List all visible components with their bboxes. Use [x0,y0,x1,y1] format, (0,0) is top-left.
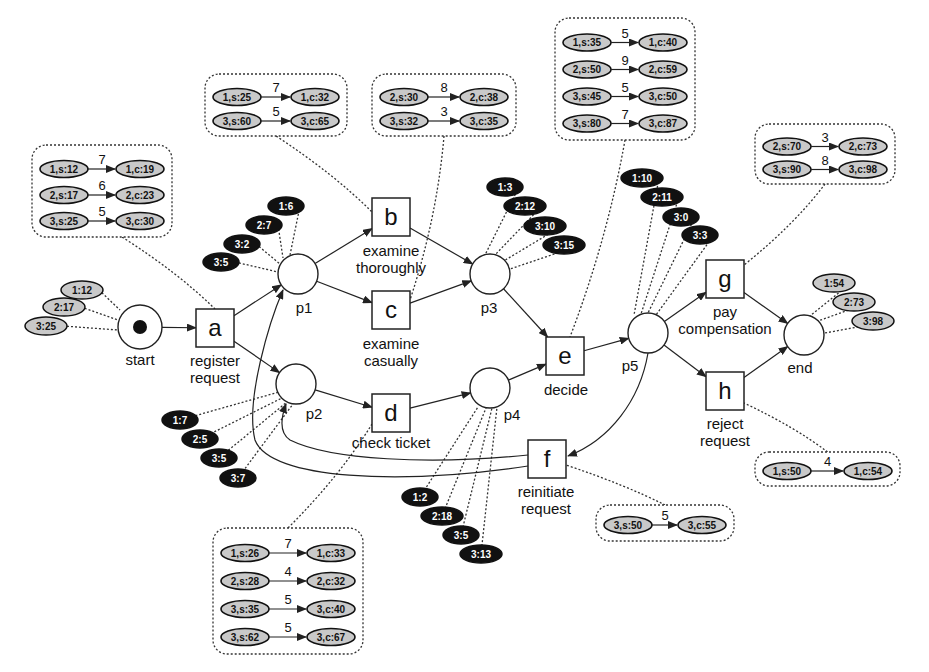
duration-label: 5 [621,26,628,41]
token-label: 2:11 [652,192,672,203]
annotation-links [63,136,890,554]
complete-event-label: 3,c:67 [317,632,346,643]
place-circle [470,368,510,408]
event-box-c: 2,s:302,c:3883,s:323,c:353 [372,74,516,136]
token-label: 3:25 [36,321,56,332]
transition-label: examine [363,242,420,259]
start-event-label: 3,s:45 [573,91,602,102]
arc-h-end [744,347,788,378]
transition-letter: b [384,203,397,230]
arc-p2-d [315,390,372,407]
place-circle [278,254,318,294]
duration-label: 5 [98,204,105,219]
arc-p3-e [503,289,547,337]
duration-label: 8 [440,80,447,95]
complete-event-label: 1,c:32 [301,92,330,103]
place-circle [784,315,824,355]
transition-label: thoroughly [356,259,427,276]
place-p5: p5 [622,313,668,374]
start-event-label: 1,s:25 [223,92,252,103]
token-link [63,326,118,330]
place-label: start [125,351,155,368]
event-box-d: 1,s:261,c:3372,s:282,c:3243,s:353,c:4053… [213,528,363,654]
duration-label: 7 [272,80,279,95]
transition-label: casually [364,352,419,369]
complete-event-label: 1,c:19 [126,164,155,175]
transition-letter: f [544,445,551,472]
duration-label: 5 [621,80,628,95]
token-dot-icon [133,320,147,334]
place-circle [276,364,316,404]
duration-label: 7 [284,536,291,551]
token-label: 2:17 [54,302,74,313]
petri-net-diagram: startp1p2p3p4p5endaregisterrequestbexami… [0,0,929,672]
transition-label: request [521,500,572,517]
duration-label: 5 [284,592,291,607]
complete-event-label: 3,c:50 [649,91,678,102]
event-box-h: 1,s:501,c:544 [755,452,900,486]
arc-p5-g [664,292,706,321]
event-box-f: 3,s:503,c:555 [596,505,734,541]
complete-event-label: 3,c:55 [688,520,717,531]
transition-letter: h [718,377,731,404]
start-event-label: 2,s:17 [50,190,79,201]
event-box-link [122,237,215,309]
arc-c-p3 [410,281,471,303]
place-label: p5 [622,357,639,374]
token-label: 3:13 [471,549,491,560]
duration-label: 6 [98,178,105,193]
tokens-p4: 1:22:183:53:13 [402,488,502,563]
transition-b: bexaminethoroughly [356,198,427,276]
arc-d-p4 [410,393,471,408]
arc-p1-c [317,281,372,302]
token-label: 2:12 [515,201,535,212]
tokens-p2: 1:72:53:53:7 [162,411,256,487]
start-event-label: 2,s:70 [773,141,802,152]
arc-g-end [744,292,788,323]
token-label: 3:2 [235,239,250,250]
place-label: p3 [481,299,498,316]
arc-a-p2 [234,341,280,372]
complete-event-label: 3,c:30 [126,216,155,227]
event-box-link [744,403,828,452]
token-link [420,407,478,497]
token-label: 1:12 [72,285,92,296]
place-end: end [784,315,824,376]
transition-letter: g [718,265,731,292]
duration-label: 7 [621,107,628,122]
complete-event-label: 2,c:59 [649,64,678,75]
start-event-label: 3,s:50 [614,520,643,531]
token-label: 1:3 [498,182,513,193]
transition-h: hrejectrequest [700,372,751,449]
transition-label: register [190,352,240,369]
transition-e: edecide [544,337,588,398]
complete-event-label: 2,c:73 [849,141,878,152]
event-box-b: 1,s:251,c:3273,s:603,c:655 [205,74,347,136]
transition-g: gpaycompensation [678,260,771,337]
start-event-label: 2,s:50 [573,64,602,75]
token-link [81,307,118,320]
start-event-label: 3,s:60 [223,116,252,127]
place-label: end [787,359,812,376]
duration-label: 7 [98,152,105,167]
place-p1: p1 [278,254,318,316]
complete-event-label: 2,c:23 [126,190,155,201]
duration-label: 8 [821,153,828,168]
transition-f: freinitiaterequest [518,440,575,517]
arc-p4-e [508,364,546,380]
complete-event-label: 1,c:54 [854,466,883,477]
place-p4: p4 [470,368,520,423]
token-label: 3:98 [863,316,883,327]
transition-label: reject [707,415,745,432]
transition-a: aregisterrequest [190,309,241,386]
token-label: 3:5 [212,453,227,464]
tokens-start: 1:122:173:25 [25,281,103,335]
arc-e-p5 [584,338,629,350]
transition-d: dcheck ticket [352,394,431,451]
token-link [485,187,519,255]
duration-label: 5 [272,104,279,119]
duration-label: 3 [440,104,447,119]
complete-event-label: 1,c:33 [317,548,346,559]
complete-event-label: 3,c:35 [470,116,499,127]
start-event-label: 2,s:28 [231,576,260,587]
